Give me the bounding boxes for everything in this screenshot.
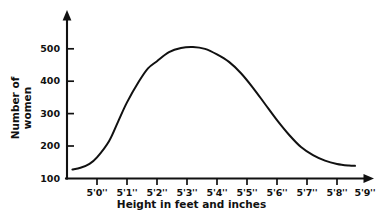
x-tick-label-5-3: 5'3'' <box>177 188 198 198</box>
x-axis-arrow-icon <box>364 174 375 183</box>
x-tick-label-5-8: 5'8'' <box>327 188 348 198</box>
y-tick-label-500: 500 <box>12 44 60 54</box>
x-tick-label-5-4: 5'4'' <box>207 188 228 198</box>
chart-container: 500 400 300 200 100 5'0'' 5'1'' 5'2'' 5'… <box>0 0 383 221</box>
y-axis-title: Number of women <box>8 58 34 158</box>
x-tick-label-5-6: 5'6'' <box>267 188 288 198</box>
y-axis-title-line-2: women <box>21 87 33 129</box>
x-tick-label-5-1: 5'1'' <box>117 188 138 198</box>
x-tick-label-5-7: 5'7'' <box>297 188 318 198</box>
x-tick-label-5-2: 5'2'' <box>147 188 168 198</box>
x-tick-label-5-0: 5'0'' <box>87 188 108 198</box>
y-axis-arrow-icon <box>63 10 72 21</box>
y-tick-label-100: 100 <box>12 174 60 184</box>
y-axis-title-line-1: Number of <box>9 77 21 139</box>
x-tick-label-5-5: 5'5'' <box>237 188 258 198</box>
distribution-curve <box>72 47 355 170</box>
x-axis-title: Height in feet and inches <box>0 199 383 210</box>
x-tick-label-5-9: 5'9'' <box>355 188 376 198</box>
